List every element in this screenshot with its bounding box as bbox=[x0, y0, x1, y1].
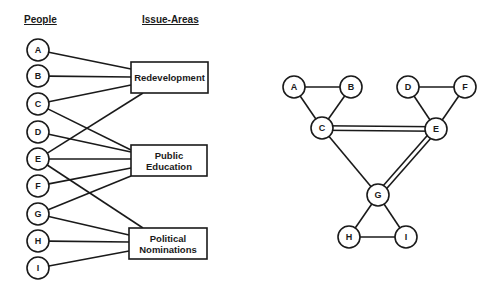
person-node-f: F bbox=[27, 175, 49, 197]
person-node-i: I bbox=[27, 257, 49, 279]
node-label: C bbox=[319, 123, 326, 133]
node-label: F bbox=[35, 181, 41, 191]
person-node-g: G bbox=[27, 203, 49, 225]
network-node-b: B bbox=[340, 76, 362, 98]
network-node-e: E bbox=[425, 118, 447, 140]
network-node-c: C bbox=[311, 117, 333, 139]
edge-c-redevelopment bbox=[49, 85, 131, 102]
node-label: D bbox=[35, 127, 42, 137]
person-node-a: A bbox=[27, 39, 49, 61]
network-node-i: I bbox=[395, 226, 417, 248]
edge-i-political-nominations bbox=[49, 251, 129, 266]
node-label: E bbox=[35, 154, 41, 164]
network-node-a: A bbox=[283, 76, 305, 98]
issue-box-label: Political bbox=[150, 233, 186, 244]
edge-h-political-nominations bbox=[49, 241, 129, 242]
issue-areas-header: Issue-Areas bbox=[142, 14, 199, 25]
issue-box-label: Redevelopment bbox=[134, 72, 206, 83]
node-label: A bbox=[35, 45, 42, 55]
issue-area-boxes: RedevelopmentPublicEducationPoliticalNom… bbox=[129, 62, 208, 259]
edge-c-g bbox=[322, 128, 378, 195]
node-label: A bbox=[291, 82, 298, 92]
node-label: B bbox=[348, 82, 355, 92]
people-nodes: ABCDEFGHI bbox=[27, 39, 49, 279]
node-label: B bbox=[35, 71, 42, 81]
node-label: G bbox=[374, 190, 381, 200]
edge-g-political-nominations bbox=[49, 216, 129, 235]
issue-box-label: Nominations bbox=[139, 244, 197, 255]
person-node-d: D bbox=[27, 121, 49, 143]
person-node-h: H bbox=[27, 230, 49, 252]
issue-box-label: Public bbox=[155, 150, 184, 161]
node-label: I bbox=[37, 263, 40, 273]
issue-box-public-education: PublicEducation bbox=[131, 145, 207, 176]
node-label: H bbox=[346, 232, 353, 242]
edge-a-redevelopment bbox=[49, 52, 131, 69]
edge-b-redevelopment bbox=[49, 76, 131, 77]
network-node-f: F bbox=[454, 76, 476, 98]
network-node-d: D bbox=[397, 76, 419, 98]
issue-box-redevelopment: Redevelopment bbox=[131, 62, 208, 93]
network-edges bbox=[294, 87, 465, 237]
people-header: People bbox=[24, 14, 57, 25]
person-node-c: C bbox=[27, 93, 49, 115]
network-nodes: ABCDFEGHI bbox=[283, 76, 476, 248]
node-label: F bbox=[462, 82, 468, 92]
node-label: I bbox=[405, 232, 408, 242]
node-label: D bbox=[405, 82, 412, 92]
node-label: C bbox=[35, 99, 42, 109]
network-node-g: G bbox=[367, 184, 389, 206]
node-label: H bbox=[35, 236, 42, 246]
issue-box-label: Education bbox=[146, 161, 192, 172]
network-node-h: H bbox=[338, 226, 360, 248]
edge-c-e bbox=[322, 126, 436, 131]
person-node-e: E bbox=[27, 148, 49, 170]
issue-box-political-nominations: PoliticalNominations bbox=[129, 228, 207, 259]
diagram-canvas: People Issue-Areas RedevelopmentPublicEd… bbox=[0, 0, 496, 291]
node-label: G bbox=[34, 209, 41, 219]
node-label: E bbox=[433, 124, 439, 134]
person-node-b: B bbox=[27, 65, 49, 87]
